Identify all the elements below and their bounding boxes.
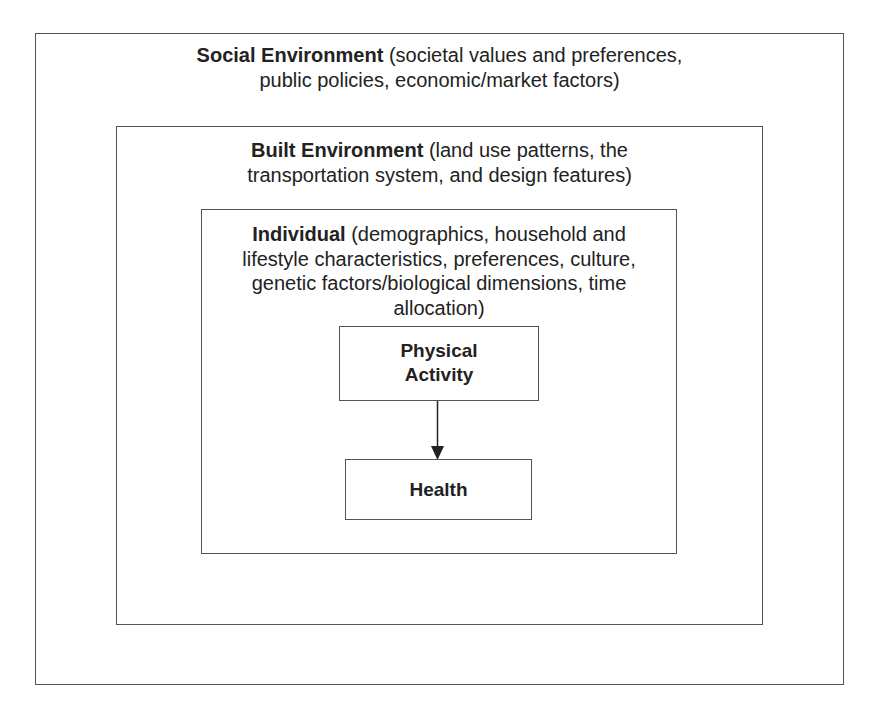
arrow-physical-activity-to-health [0, 0, 877, 712]
arrowhead-icon [431, 446, 444, 460]
health-node: Health [345, 459, 532, 520]
health-label: Health [346, 478, 531, 502]
